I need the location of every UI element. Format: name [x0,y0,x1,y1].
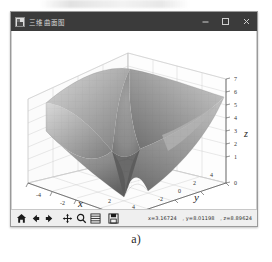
zoom-magnifier-icon [76,213,87,224]
z-axis-ticks: 7 6 5 4 3 2 1 0 z [226,76,248,186]
figure-caption: a) [0,232,272,247]
close-button[interactable] [235,12,257,31]
maximize-icon [221,17,230,26]
z-tick-1: 1 [234,154,237,160]
z-tick-7: 7 [234,76,237,82]
minimize-icon [201,17,210,26]
home-icon [16,213,27,224]
window-controls [195,12,257,31]
y-tick-2: 2 [193,180,196,186]
back-arrow-icon [30,213,41,224]
save-disk-icon [108,213,119,224]
z-tick-2: 2 [234,141,237,147]
z-tick-4: 4 [234,115,237,121]
back-button[interactable] [28,211,42,225]
forward-arrow-icon [44,213,55,224]
x-tick-2: 2 [108,198,111,204]
figure-canvas[interactable]: 7 6 5 4 3 2 1 0 z -4 -2 [11,31,257,209]
y-tick-n2: -2 [158,196,163,202]
maximize-button[interactable] [215,12,235,31]
z-tick-6: 6 [234,89,237,95]
z-tick-0: 0 [234,180,237,186]
save-button[interactable] [106,211,120,225]
forward-button[interactable] [42,211,56,225]
home-button[interactable] [14,211,28,225]
pan-button[interactable] [60,211,74,225]
configure-subplots-icon [90,213,101,224]
zoom-button[interactable] [74,211,88,225]
y-tick-4: 4 [210,172,213,178]
minimize-button[interactable] [195,12,215,31]
scan-artifact [40,0,190,8]
coordinate-readout: x=3.16724 , y=8.01198 , z=8.89624 [144,215,252,221]
navigation-toolbar: x=3.16724 , y=8.01198 , z=8.89624 [11,209,257,226]
close-icon [242,17,251,26]
coord-z: , z=8.89624 [220,215,252,221]
surface-plot-3d[interactable]: 7 6 5 4 3 2 1 0 z -4 -2 [12,31,257,209]
configure-subplots-button[interactable] [88,211,102,225]
app-icon [15,17,25,27]
window-titlebar[interactable]: 三维曲面图 [11,12,257,31]
pan-move-icon [62,213,73,224]
x-axis-label: x [77,197,83,209]
z-tick-5: 5 [234,102,237,108]
z-tick-3: 3 [234,128,237,134]
plot-window: 三维曲面图 [10,11,258,227]
z-axis-label: z [243,128,248,139]
coord-x: x=3.16724 [148,215,177,221]
y-axis-label: y [193,191,199,203]
y-tick-0: 0 [178,188,181,194]
window-title: 三维曲面图 [29,17,66,27]
x-tick-n2: -2 [60,200,65,206]
x-tick-n4: -4 [36,192,41,198]
coord-y: , y=8.01198 [182,215,214,221]
